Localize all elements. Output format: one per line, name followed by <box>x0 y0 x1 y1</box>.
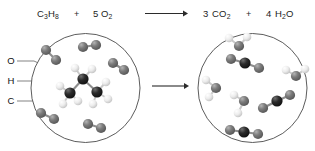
oxygen-atom <box>291 71 301 81</box>
hydrogen-atom <box>202 76 211 85</box>
oxygen-atom <box>36 108 46 118</box>
carbon-atom <box>77 73 88 84</box>
oxygen-atom <box>41 45 51 55</box>
hydrogen-atom <box>205 93 214 102</box>
carbon-atom <box>64 87 75 98</box>
oxygen-atom <box>83 119 93 129</box>
hydrogen-atom <box>282 66 291 75</box>
oxygen-atom <box>258 103 268 113</box>
legend-label-hydrogen: H <box>8 75 15 86</box>
oxygen-atom <box>239 96 249 106</box>
hydrogen-atom <box>102 78 111 87</box>
oxygen-atom <box>78 42 88 52</box>
hydrogen-atom <box>234 109 243 118</box>
equation-arrow-head <box>183 11 188 17</box>
hydrogen-atom <box>301 65 310 74</box>
hydrogen-atom <box>225 34 234 43</box>
hydrogen-atom <box>104 95 113 104</box>
oxygen-atom <box>49 114 59 124</box>
oxygen-atom <box>108 58 118 68</box>
figure-canvas: C3H8 + 5 O2 3 CO2 + 4 H2O O H C <box>0 0 315 151</box>
reactant-oxygen: O2 <box>101 8 113 20</box>
oxygen-atom <box>119 65 129 75</box>
reaction-arrow <box>152 83 189 89</box>
reaction-arrow-head <box>184 83 189 89</box>
product-water-coefficient: 4 <box>266 8 271 19</box>
oxygen-atom <box>211 83 221 93</box>
legend-label-oxygen: O <box>7 55 14 66</box>
oxygen-atom <box>91 40 101 50</box>
oxygen-atom <box>285 90 295 100</box>
hydrogen-atom <box>230 91 239 100</box>
oxygen-atom <box>253 129 263 139</box>
oxygen-atom <box>254 63 264 73</box>
carbon-atom <box>91 86 102 97</box>
reactants-vessel <box>31 34 140 143</box>
reactant-propane: C3H8 <box>37 8 59 20</box>
hydrogen-atom <box>88 65 97 74</box>
oxygen-atom <box>226 54 236 64</box>
oxygen-atom <box>96 123 106 133</box>
hydrogen-atom <box>71 64 80 73</box>
oxygen-atom <box>234 41 244 51</box>
products-vessel <box>198 33 309 143</box>
hydrogen-atom <box>89 100 98 109</box>
product-water: H2O <box>275 8 294 20</box>
carbon-atom <box>271 95 282 106</box>
hydrogen-atom <box>243 33 252 42</box>
carbon-atom <box>239 57 250 68</box>
equation-row: C3H8 + 5 O2 3 CO2 + 4 H2O <box>37 8 294 20</box>
hydrogen-atom <box>56 82 65 91</box>
hydrogen-atom <box>59 100 68 109</box>
reactant-oxygen-coefficient: 5 <box>93 8 98 19</box>
legend-label-carbon: C <box>8 95 15 106</box>
equation-plus-2: + <box>246 9 251 19</box>
oxygen-atom <box>225 125 235 135</box>
carbon-atom <box>238 126 249 137</box>
equation-plus-1: + <box>74 9 79 19</box>
hydrogen-atom <box>74 97 83 106</box>
product-co2-coefficient: 3 <box>203 8 208 19</box>
product-carbon-dioxide: CO2 <box>212 8 231 20</box>
oxygen-atom <box>51 55 61 65</box>
